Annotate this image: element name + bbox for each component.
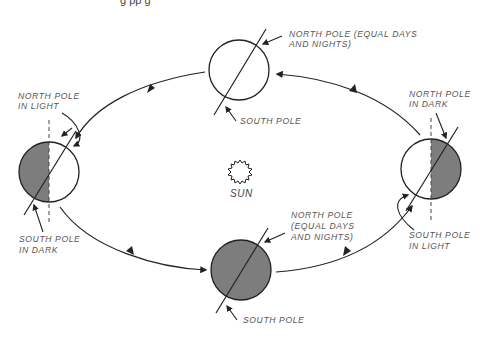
cut-off-caption: g pp g xyxy=(120,0,151,6)
night-side xyxy=(431,137,463,201)
night-side xyxy=(19,140,49,204)
bottom-north-label-1: NORTH POLE xyxy=(291,210,353,220)
north-pole-pointer-2 xyxy=(62,128,72,136)
top-north-label-1: NORTH POLE (EQUAL DAYS xyxy=(289,29,417,39)
earth-top-position: NORTH POLE (EQUAL DAYS AND NIGHTS) SOUTH… xyxy=(209,29,417,126)
top-north-label-2: AND NIGHTS) xyxy=(288,39,351,49)
left-north-label-1: NORTH POLE xyxy=(18,91,80,101)
right-north-label-2: IN DARK xyxy=(409,99,449,109)
north-pole-pointer xyxy=(265,233,285,242)
right-south-label-2: IN LIGHT xyxy=(409,241,450,251)
south-pole-pointer xyxy=(34,205,43,232)
right-south-label-1: SOUTH POLE xyxy=(409,230,470,240)
sun-icon xyxy=(228,160,252,184)
north-pole-pointer xyxy=(263,36,282,44)
sun-label: SUN xyxy=(230,188,253,199)
right-north-label-1: NORTH POLE xyxy=(409,89,471,99)
earth-bottom-position: NORTH POLE (EQUAL DAYS AND NIGHTS) SOUTH… xyxy=(211,210,355,325)
earth-orbit-diagram: g pp g SUN NORTH POLE (EQUAL DAYS AND NI… xyxy=(0,0,482,338)
left-south-label-2: IN DARK xyxy=(19,245,59,255)
south-pole-pointer xyxy=(227,306,237,320)
left-north-label-2: IN LIGHT xyxy=(18,101,59,111)
bottom-north-label-3: AND NIGHTS) xyxy=(290,232,353,242)
bottom-north-label-2: (EQUAL DAYS xyxy=(291,221,355,231)
top-south-label: SOUTH POLE xyxy=(240,116,301,126)
earth-right-position: NORTH POLE IN DARK SOUTH POLE IN LIGHT xyxy=(398,89,471,251)
north-pole-pointer xyxy=(436,113,446,138)
left-south-label-1: SOUTH POLE xyxy=(19,234,80,244)
earth-left-position: NORTH POLE IN LIGHT SOUTH POLE IN DARK xyxy=(18,91,80,255)
south-pole-pointer xyxy=(398,195,414,230)
south-pole-pointer xyxy=(226,107,236,121)
bottom-south-label: SOUTH POLE xyxy=(243,315,304,325)
